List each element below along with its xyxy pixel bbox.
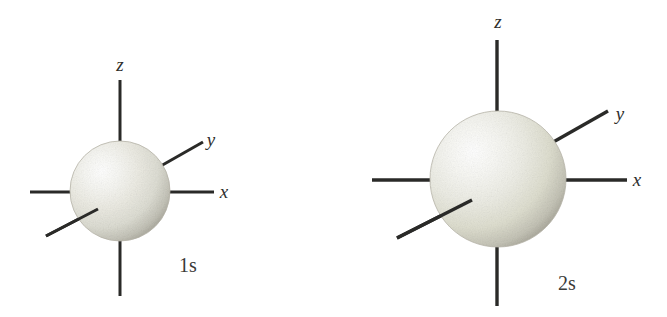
axis-y-positive-2s — [548, 111, 608, 145]
orbital-caption-2s: 2s — [558, 272, 576, 294]
orbital-diagram-canvas: z x y 1s z x y — [0, 0, 667, 317]
orbital-figure: z x y 1s z x y — [0, 0, 667, 317]
axis-label-z-2s: z — [493, 11, 502, 32]
orbital-caption-1s: 1s — [179, 254, 197, 276]
axis-label-x-2s: x — [632, 169, 642, 190]
orbital-2s-sphere — [430, 111, 566, 247]
axis-label-z-1s: z — [115, 54, 124, 75]
orbital-1s-sphere — [70, 141, 170, 241]
axis-y-positive-1s — [159, 142, 203, 167]
axis-label-x-1s: x — [219, 181, 229, 202]
orbital-1s-group: z x y 1s — [30, 54, 229, 296]
axis-label-y-1s: y — [205, 129, 216, 150]
axis-label-y-2s: y — [614, 103, 625, 124]
orbital-2s-group: z x y 2s — [372, 11, 642, 306]
